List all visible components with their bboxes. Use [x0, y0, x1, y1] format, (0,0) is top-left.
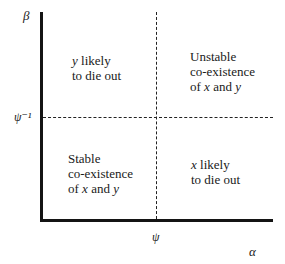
region-text: co-existence	[68, 166, 133, 181]
region-text: Stable	[68, 151, 133, 166]
region-text: of	[68, 181, 82, 196]
region-text: likely	[78, 53, 111, 68]
beta-threshold-line	[43, 117, 273, 118]
region-text: co-existence	[190, 64, 255, 79]
region-text: and	[210, 79, 235, 94]
region-text: likely	[197, 157, 230, 172]
region-text: to die out	[72, 68, 121, 83]
region-text: and	[88, 181, 113, 196]
y-threshold-tick-label: ψ⁻¹	[14, 110, 31, 125]
x-threshold-tick-label: ψ	[152, 230, 159, 245]
x-axis-label: α	[249, 244, 256, 259]
alpha-threshold-line	[156, 12, 157, 219]
x-axis	[40, 219, 273, 222]
var-y: y	[113, 181, 119, 196]
region-top-left: y likely to die out	[72, 53, 121, 83]
region-text: to die out	[191, 172, 240, 187]
region-top-right: Unstable co-existence of x and y	[190, 49, 255, 94]
region-text: Unstable	[190, 49, 255, 64]
region-text: of	[190, 79, 204, 94]
region-bottom-right: x likely to die out	[191, 157, 240, 187]
var-y: y	[235, 79, 241, 94]
region-bottom-left: Stable co-existence of x and y	[68, 151, 133, 196]
y-tick-text: ψ⁻¹	[14, 110, 31, 124]
y-axis-label: β	[23, 8, 29, 23]
